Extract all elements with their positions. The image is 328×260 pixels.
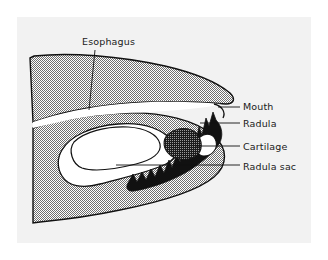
figure-root: Esophagus Mouth Radula Cartilage Radula … [0, 0, 328, 260]
label-esophagus: Esophagus [82, 36, 135, 47]
cartilage-blob [164, 129, 201, 160]
label-radula-sac: Radula sac [243, 161, 296, 172]
label-radula: Radula [243, 118, 277, 129]
label-cartilage: Cartilage [243, 141, 287, 152]
label-mouth: Mouth [243, 101, 274, 112]
anatomy-diagram: Esophagus Mouth Radula Cartilage Radula … [0, 0, 328, 260]
